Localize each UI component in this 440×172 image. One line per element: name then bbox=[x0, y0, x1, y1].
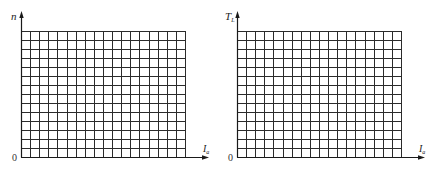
y-axis-arrow-icon bbox=[19, 11, 23, 18]
x-axis-arrow-icon bbox=[418, 155, 425, 159]
left-graph-n-vs-ia: n Ia 0 bbox=[11, 10, 209, 163]
left-origin-label: 0 bbox=[12, 152, 17, 163]
figure-canvas: n Ia 0 TL Ia 0 bbox=[0, 0, 440, 172]
left-grid bbox=[21, 31, 186, 158]
right-graph-tl-vs-ia: TL Ia 0 bbox=[225, 10, 425, 163]
y-axis-arrow-icon bbox=[235, 11, 239, 18]
x-axis-arrow-icon bbox=[202, 155, 209, 159]
right-origin-label: 0 bbox=[228, 152, 233, 163]
right-y-axis-label: TL bbox=[225, 10, 235, 23]
right-x-axis-label: Ia bbox=[418, 143, 425, 155]
right-grid bbox=[237, 31, 402, 158]
left-y-axis-label: n bbox=[11, 10, 17, 22]
left-x-axis-label: Ia bbox=[202, 143, 209, 155]
